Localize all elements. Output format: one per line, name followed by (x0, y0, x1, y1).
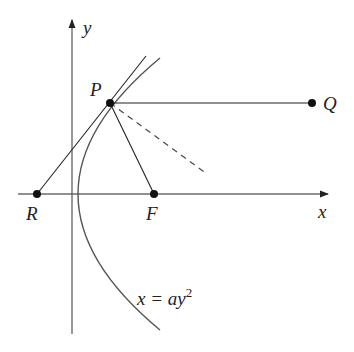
parabola-diagram: y x P Q R F x = ay2 (0, 0, 354, 352)
tangent-line (37, 56, 146, 194)
point-r (33, 190, 41, 198)
dashed-line (110, 103, 207, 174)
label-q: Q (323, 93, 337, 114)
x-axis-label: x (317, 201, 327, 222)
curve-equation: x = ay2 (136, 285, 192, 309)
y-axis-label: y (81, 17, 92, 38)
label-f: F (145, 203, 158, 224)
point-q (308, 99, 316, 107)
line-pf (110, 103, 154, 194)
label-p: P (89, 79, 102, 100)
curve-equation-exp: 2 (186, 285, 193, 300)
point-f (150, 190, 158, 198)
curve-equation-base: x = ay (136, 288, 186, 309)
label-r: R (25, 203, 38, 224)
point-p (106, 99, 114, 107)
